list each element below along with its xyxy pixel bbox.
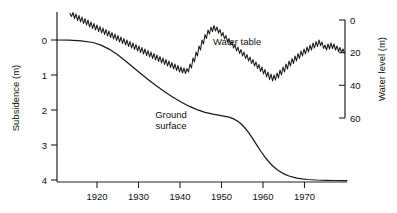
- left-tick-label-1: 1: [42, 70, 47, 81]
- x-tick-label-1970: 1970: [294, 191, 315, 202]
- ground-surface-label-line1: Ground: [155, 109, 187, 120]
- x-tick-label-1920: 1920: [86, 191, 107, 202]
- x-tick-label-1940: 1940: [169, 191, 190, 202]
- right-axis: 0 20 40 60 Water level (m): [339, 15, 387, 124]
- ground-surface-curve: [57, 40, 347, 181]
- right-tick-label-40: 40: [350, 80, 361, 91]
- right-tick-label-20: 20: [350, 47, 361, 58]
- left-tick-label-0: 0: [42, 35, 47, 46]
- x-tick-label-1930: 1930: [128, 191, 149, 202]
- left-axis-ticks: [51, 40, 57, 180]
- right-tick-label-60: 60: [350, 113, 361, 124]
- left-tick-label-4: 4: [42, 175, 47, 186]
- water-table-label: Water table: [213, 36, 261, 47]
- subsidence-water-level-chart: 0 1 2 3 4 Subsidence (m) 1920 1930 1940 …: [0, 0, 397, 213]
- right-axis-ticks: [339, 20, 345, 118]
- left-tick-label-2: 2: [42, 105, 47, 116]
- left-axis-title: Subsidence (m): [10, 65, 21, 132]
- x-axis-ticks: [97, 182, 305, 188]
- right-tick-label-0: 0: [350, 15, 355, 26]
- chart-canvas: 0 1 2 3 4 Subsidence (m) 1920 1930 1940 …: [0, 0, 397, 213]
- x-tick-label-1960: 1960: [252, 191, 273, 202]
- right-axis-title: Water level (m): [376, 37, 387, 101]
- x-axis: 1920 1930 1940 1950 1960 1970: [57, 182, 347, 202]
- left-axis: 0 1 2 3 4 Subsidence (m): [10, 12, 57, 186]
- water-table-curve: [70, 13, 345, 82]
- left-tick-label-3: 3: [42, 140, 47, 151]
- ground-surface-label-line2: surface: [155, 120, 186, 131]
- x-tick-label-1950: 1950: [211, 191, 232, 202]
